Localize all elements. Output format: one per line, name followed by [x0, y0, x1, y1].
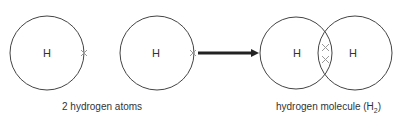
- caption-text: hydrogen molecule (H: [276, 101, 374, 112]
- hydrogen-atom-1: H: [10, 16, 87, 90]
- diagram-canvas: H H H H: [0, 0, 397, 114]
- hydrogen-atom-2: H: [120, 16, 196, 90]
- electron-cross-icon: [190, 50, 196, 56]
- caption-hydrogen-atoms: 2 hydrogen atoms: [62, 101, 142, 112]
- atom-symbol-left: H: [293, 47, 301, 59]
- shared-electron-cross-icon-top: [322, 44, 329, 51]
- reaction-arrow-icon: [198, 49, 259, 57]
- atom-symbol-right: H: [349, 47, 357, 59]
- caption-hydrogen-molecule: hydrogen molecule (H2): [276, 101, 381, 114]
- hydrogen-molecule: H H: [260, 16, 392, 90]
- atom-symbol: H: [152, 47, 160, 59]
- atom-symbol: H: [43, 47, 51, 59]
- shared-electron-cross-icon-bottom: [322, 56, 329, 63]
- caption-close: ): [378, 101, 381, 112]
